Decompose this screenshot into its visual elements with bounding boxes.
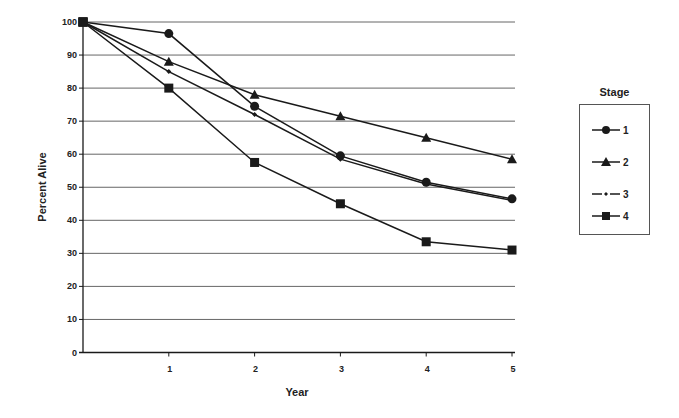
- circle-marker-icon: [250, 102, 259, 111]
- legend: 1 2 3 4: [579, 104, 650, 235]
- circle-marker-icon: [164, 29, 173, 38]
- series-stage-3: [79, 18, 515, 203]
- axes: 010203040506070809010012345: [62, 17, 516, 374]
- triangle-marker-icon: [250, 90, 260, 99]
- y-tick-label: 70: [67, 116, 77, 126]
- legend-item-stage-2: 2: [592, 155, 629, 169]
- y-tick-label: 20: [67, 281, 77, 291]
- y-tick-label: 0: [72, 348, 77, 358]
- y-tick-label: 90: [67, 50, 77, 60]
- x-axis-title: Year: [285, 386, 309, 398]
- legend-title: Stage: [579, 86, 650, 98]
- x-tick-label: 2: [253, 364, 258, 374]
- legend-item-stage-4: 4: [592, 209, 629, 223]
- gridlines: [83, 22, 515, 319]
- square-marker-icon: [79, 18, 88, 27]
- legend-item-stage-1: 1: [592, 123, 629, 137]
- y-tick-label: 80: [67, 83, 77, 93]
- square-marker-icon: [336, 199, 345, 208]
- legend-item-stage-3: 3: [592, 187, 629, 201]
- line-chart: 010203040506070809010012345 Year Percent…: [0, 0, 679, 418]
- series-stage-2: [79, 18, 518, 164]
- y-tick-label: 10: [67, 314, 77, 324]
- y-tick-label: 40: [67, 215, 77, 225]
- y-tick-label: 60: [67, 149, 77, 159]
- x-tick-label: 4: [425, 364, 430, 374]
- legend-label: 1: [623, 125, 629, 136]
- square-marker-icon: [592, 209, 620, 223]
- square-marker-icon: [250, 158, 259, 167]
- legend-label: 3: [623, 189, 629, 200]
- y-tick-label: 50: [67, 182, 77, 192]
- square-marker-icon: [422, 237, 431, 246]
- y-tick-label: 30: [67, 248, 77, 258]
- x-tick-label: 1: [167, 364, 172, 374]
- legend-label: 2: [623, 157, 629, 168]
- triangle-marker-icon: [592, 155, 620, 169]
- square-marker-icon: [164, 84, 173, 93]
- data-series: [79, 18, 518, 255]
- y-tick-label: 100: [62, 17, 77, 27]
- circle-marker-icon: [592, 123, 620, 137]
- series-stage-1: [79, 18, 517, 204]
- diamond-marker-icon: [592, 187, 620, 201]
- triangle-marker-icon: [164, 57, 174, 66]
- y-axis-title: Percent Alive: [36, 152, 48, 221]
- square-marker-icon: [508, 246, 517, 255]
- x-tick-label: 3: [339, 364, 344, 374]
- legend-label: 4: [623, 211, 629, 222]
- x-tick-label: 5: [510, 364, 515, 374]
